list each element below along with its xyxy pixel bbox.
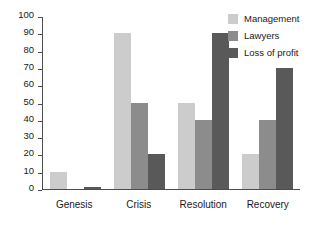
y-tick-label: 70 [23, 62, 34, 72]
y-tick-label: 0 [29, 183, 34, 193]
x-axis-label: Genesis [42, 192, 107, 210]
x-axis: GenesisCrisisResolutionRecovery [42, 192, 300, 210]
x-axis-label: Recovery [236, 192, 301, 210]
bar [148, 154, 165, 189]
bar [242, 154, 259, 189]
y-tick-label: 80 [23, 45, 34, 55]
legend-item: Management [228, 12, 299, 26]
bar [259, 120, 276, 189]
legend-swatch-icon [228, 14, 238, 24]
legend-swatch-icon [228, 31, 238, 41]
y-tick-label: 30 [23, 131, 34, 141]
y-tick-label: 90 [23, 27, 34, 37]
legend-swatch-icon [228, 48, 238, 58]
bar [50, 172, 67, 189]
y-tick-mark [38, 190, 42, 191]
y-tick-label: 10 [23, 166, 34, 176]
y-tick-label: 60 [23, 79, 34, 89]
bar [84, 187, 101, 189]
grouped-bar-chart: 1009080706050403020100 GenesisCrisisReso… [0, 0, 327, 226]
bar-group [43, 17, 107, 189]
bar [131, 103, 148, 190]
bar [276, 68, 293, 189]
y-tick-label: 40 [23, 114, 34, 124]
x-axis-label: Crisis [107, 192, 172, 210]
y-tick-label: 20 [23, 148, 34, 158]
bar-group [107, 17, 171, 189]
legend-label: Lawyers [244, 31, 279, 41]
y-axis: 1009080706050403020100 [0, 17, 42, 190]
bar [212, 33, 229, 189]
y-tick-label: 100 [18, 10, 34, 20]
legend-item: Loss of profit [228, 46, 299, 60]
legend: ManagementLawyersLoss of profit [228, 12, 299, 63]
bar [114, 33, 131, 189]
legend-label: Management [244, 14, 299, 24]
x-axis-label: Resolution [171, 192, 236, 210]
bar [195, 120, 212, 189]
legend-item: Lawyers [228, 29, 299, 43]
bar-group [172, 17, 236, 189]
y-tick-label: 50 [23, 97, 34, 107]
legend-label: Loss of profit [244, 48, 298, 58]
bar [178, 103, 195, 190]
